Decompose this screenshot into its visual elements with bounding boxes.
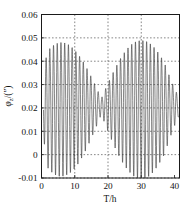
x-tick-label: 40 <box>170 181 180 191</box>
y-tick-label: 0.06 <box>21 10 37 20</box>
x-tick-label: 10 <box>70 181 80 191</box>
x-tick-label: 0 <box>39 181 44 191</box>
y-tick-label: 0.05 <box>21 33 37 43</box>
y-tick-label: 0.02 <box>21 103 37 113</box>
y-axis-title: φz/(″) <box>3 86 14 107</box>
x-axis-title: T/h <box>103 194 116 204</box>
y-tick-label: -0.01 <box>18 173 38 183</box>
chart-figure: -0.0100.010.020.030.040.050.06 010203040… <box>0 0 191 209</box>
x-tick-label: 30 <box>137 181 147 191</box>
x-tick-label: 20 <box>103 181 113 191</box>
y-tick-label: 0 <box>33 150 38 160</box>
y-tick-label: 0.01 <box>21 127 37 137</box>
y-tick-label: 0.03 <box>21 80 37 90</box>
oscillation-line-chart: -0.0100.010.020.030.040.050.06 010203040… <box>0 0 191 209</box>
svg-text:φz/(″): φz/(″) <box>3 86 14 107</box>
y-tick-labels: -0.0100.010.020.030.040.050.06 <box>18 10 38 184</box>
x-tick-labels: 010203040 <box>39 181 179 191</box>
y-tick-label: 0.04 <box>21 57 37 67</box>
